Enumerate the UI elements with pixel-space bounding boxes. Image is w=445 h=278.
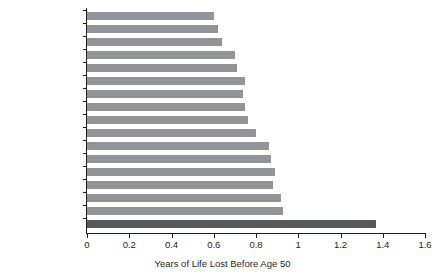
- x-axis-tick-label: 1: [278, 239, 318, 251]
- y-axis-tick: [83, 114, 87, 115]
- bar: [87, 103, 245, 111]
- y-axis-tick: [83, 127, 87, 128]
- bar-row: Netherlands: [87, 23, 425, 36]
- y-axis-tick: [83, 75, 87, 76]
- bar-row: Japan: [87, 36, 425, 49]
- y-axis-tick: [83, 205, 87, 206]
- bar-row: Italy: [87, 49, 425, 62]
- bar-chart: SwedenNetherlandsJapanItalySwitzerlandGe…: [0, 0, 445, 278]
- x-axis-tick: [214, 233, 215, 238]
- y-axis-tick: [83, 166, 87, 167]
- y-axis-tick: [83, 192, 87, 193]
- bar-row: Portugal: [87, 166, 425, 179]
- y-axis-tick: [83, 10, 87, 11]
- x-axis-tick-label: 1.6: [405, 239, 445, 251]
- x-axis-tick: [298, 233, 299, 238]
- x-axis-tick: [425, 233, 426, 238]
- bar-row: Finland: [87, 205, 425, 218]
- y-axis-tick: [83, 36, 87, 37]
- x-axis-tick-label: 0.2: [109, 239, 149, 251]
- bar: [87, 220, 376, 228]
- bar: [87, 12, 214, 20]
- bar-row: Norway: [87, 101, 425, 114]
- bar-row: Australia: [87, 153, 425, 166]
- y-axis-tick: [83, 218, 87, 219]
- y-axis-tick: [83, 140, 87, 141]
- bar: [87, 168, 275, 176]
- plot-area: SwedenNetherlandsJapanItalySwitzerlandGe…: [87, 10, 425, 232]
- y-axis-tick: [83, 62, 87, 63]
- x-axis-tick-label: 0: [67, 239, 107, 251]
- bar: [87, 207, 283, 215]
- x-axis-tick-label: 0.6: [194, 239, 234, 251]
- bar: [87, 155, 271, 163]
- x-axis-tick: [383, 233, 384, 238]
- bar: [87, 90, 243, 98]
- bar: [87, 142, 269, 150]
- y-axis-tick: [83, 179, 87, 180]
- y-axis-tick: [83, 49, 87, 50]
- bar: [87, 38, 222, 46]
- x-axis-tick-label: 1.2: [321, 239, 361, 251]
- x-axis-tick-label: 1.4: [363, 239, 403, 251]
- x-axis-tick: [341, 233, 342, 238]
- bar: [87, 64, 237, 72]
- x-axis-tick: [87, 233, 88, 238]
- bar: [87, 194, 281, 202]
- bar-row: Germany: [87, 75, 425, 88]
- bar-row: Switzerland: [87, 62, 425, 75]
- bar: [87, 129, 256, 137]
- bar-row: Canada: [87, 192, 425, 205]
- bar: [87, 25, 218, 33]
- bar: [87, 51, 235, 59]
- y-axis-tick: [83, 101, 87, 102]
- bar-row: Austria: [87, 114, 425, 127]
- bar-row: France: [87, 140, 425, 153]
- bar: [87, 77, 245, 85]
- y-axis-tick: [83, 23, 87, 24]
- x-axis-title: Years of Life Lost Before Age 50: [0, 258, 445, 269]
- bar: [87, 181, 273, 189]
- x-axis-tick-label: 0.4: [152, 239, 192, 251]
- x-axis-tick: [256, 233, 257, 238]
- bar-row: United States: [87, 218, 425, 231]
- x-axis-tick-label: 0.8: [236, 239, 276, 251]
- bar-row: United Kingdom: [87, 179, 425, 192]
- bar: [87, 116, 248, 124]
- bar-row: Sweden: [87, 10, 425, 23]
- bar-row: Spain: [87, 88, 425, 101]
- y-axis-tick: [83, 88, 87, 89]
- y-axis-tick: [83, 153, 87, 154]
- x-axis-tick: [172, 233, 173, 238]
- x-axis-tick: [129, 233, 130, 238]
- bar-row: Denmark: [87, 127, 425, 140]
